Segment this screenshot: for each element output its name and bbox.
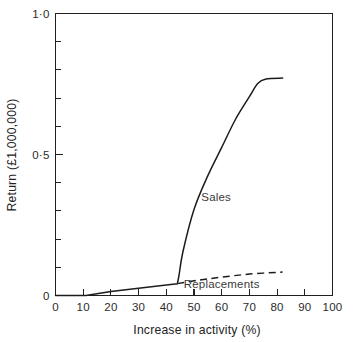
series-label-sales: Sales [201,191,231,203]
y-tick-label: 1·0 [32,8,49,20]
x-tick-label: 100 [323,301,343,313]
chart-background [0,0,353,342]
x-tick-label: 90 [298,301,311,313]
y-tick-label: 0 [43,290,50,302]
chart-svg: 00·51·0 0102030405060708090100 Sales Rep… [0,0,353,342]
x-tick-label: 40 [160,301,173,313]
y-axis-title: Return (£1,000,000) [5,99,19,212]
x-tick-label: 0 [52,301,59,313]
y-tick-label: 0·5 [32,149,49,161]
chart-figure: 00·51·0 0102030405060708090100 Sales Rep… [0,0,353,342]
x-tick-label: 60 [215,301,228,313]
x-tick-label: 70 [243,301,256,313]
series-label-replacements: Replacements [184,278,260,290]
x-tick-label: 30 [132,301,145,313]
x-tick-label: 20 [104,301,117,313]
x-tick-label: 50 [187,301,200,313]
x-axis-title: Increase in activity (%) [133,323,260,337]
x-tick-label: 10 [77,301,90,313]
x-tick-label: 80 [270,301,283,313]
